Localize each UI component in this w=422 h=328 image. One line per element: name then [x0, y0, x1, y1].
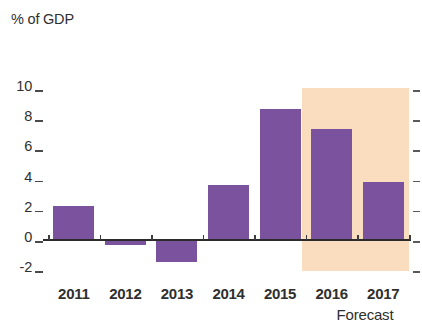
x-axis-tick-mark	[48, 235, 50, 240]
y-axis-tick-label: 8	[0, 108, 32, 124]
chart-container: % of GDP 1086420-22011201220132014201520…	[0, 0, 422, 328]
y-axis-tick-mark	[35, 181, 43, 183]
bar-2011	[53, 206, 94, 239]
bar-2016	[311, 129, 352, 239]
y-axis-tick-mark-right	[413, 181, 420, 183]
y-axis-tick-mark-right	[413, 90, 420, 92]
y-axis-tick-label: 6	[0, 138, 32, 154]
y-axis-tick-mark-right	[413, 271, 420, 273]
plot-area: 1086420-22011201220132014201520162017	[0, 0, 422, 328]
x-axis-label-2017: 2017	[353, 285, 413, 302]
y-axis-tick-mark	[35, 90, 43, 92]
y-axis-tick-mark-right	[413, 150, 420, 152]
y-axis-tick-mark	[35, 211, 43, 213]
y-axis-tick-mark	[35, 120, 43, 122]
zero-baseline	[43, 239, 411, 241]
bar-2017	[363, 182, 404, 239]
bar-2015	[260, 109, 301, 239]
y-axis-tick-mark-right	[413, 241, 420, 243]
x-axis-tick-mark	[357, 235, 359, 240]
y-axis-tick-label: 4	[0, 169, 32, 185]
y-axis-tick-label: 0	[0, 229, 32, 245]
x-axis-tick-mark	[306, 235, 308, 240]
x-axis-tick-mark	[151, 235, 153, 240]
bar-2013	[156, 239, 197, 262]
y-axis-tick-label: 2	[0, 199, 32, 215]
y-axis-tick-mark	[35, 241, 43, 243]
y-axis-tick-mark	[35, 271, 43, 273]
y-axis-tick-mark	[35, 150, 43, 152]
x-axis-tick-mark	[203, 235, 205, 240]
y-axis-tick-mark-right	[413, 211, 420, 213]
forecast-caption: Forecast	[320, 306, 410, 323]
x-axis-tick-mark	[254, 235, 256, 240]
bar-2014	[208, 185, 249, 239]
y-axis-tick-label: 10	[0, 78, 32, 94]
x-axis-tick-mark	[409, 235, 411, 240]
x-axis-tick-mark	[100, 235, 102, 240]
y-axis-tick-mark-right	[413, 120, 420, 122]
y-axis-tick-label: -2	[0, 259, 32, 275]
